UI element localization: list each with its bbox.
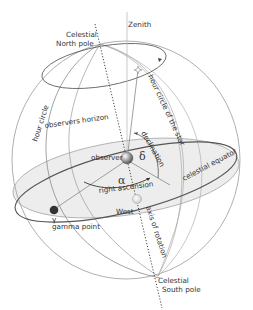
south-pole-label-1: Celestial — [158, 276, 189, 285]
north-pole-label-2: North pole — [56, 39, 94, 48]
delta-symbol: δ — [139, 150, 146, 163]
south-pole-label-2: South pole — [162, 285, 201, 294]
west-point-icon — [133, 195, 142, 204]
gamma-point-label: gamma point — [52, 222, 100, 231]
observers-horizon-label: observers horizon — [44, 112, 109, 130]
celestial-sphere-diagram: Zenith Celestial North pole hour circle … — [0, 0, 253, 310]
declination-circle-arrow — [158, 58, 162, 62]
axis-of-rotation-label: axis of rotation — [144, 205, 169, 259]
north-pole-label-1: Celestial — [66, 30, 97, 39]
zenith-label: Zenith — [128, 20, 151, 29]
observer-label: observer — [91, 153, 123, 162]
hour-circle-star-label: hour circle of the star — [146, 73, 187, 147]
west-label: West — [116, 207, 134, 216]
gamma-point-icon — [50, 206, 59, 215]
observer-icon — [121, 152, 133, 164]
